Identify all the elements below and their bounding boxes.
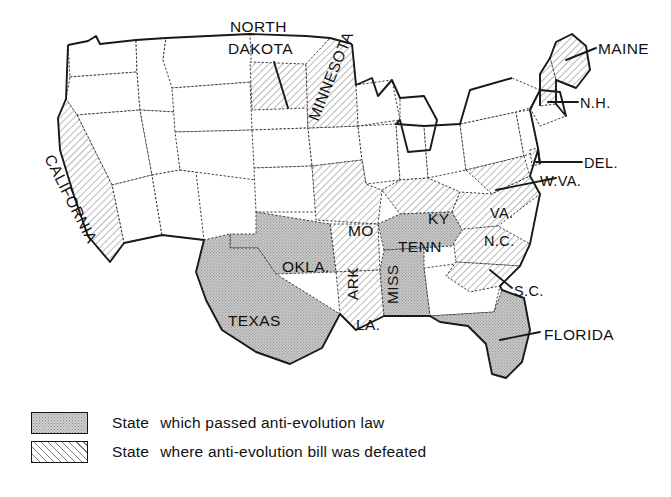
label-nh: N.H. (580, 95, 611, 111)
map-legend: Statewhich passed anti-evolution law Sta… (0, 408, 671, 497)
state-WY (172, 82, 254, 132)
legend-lead-passed: State (112, 414, 149, 431)
label-mo: MO (348, 222, 374, 239)
state-KY-shape (382, 178, 460, 214)
legend-desc-passed: which passed anti-evolution law (160, 414, 384, 431)
label-north-dakota-line1: NORTH (230, 18, 287, 35)
state-OH (424, 124, 466, 178)
legend-label-passed: Statewhich passed anti-evolution law (112, 414, 384, 432)
label-sc: S.C. (514, 283, 544, 299)
label-del: DEL. (584, 155, 618, 171)
label-maine: MAINE (598, 40, 649, 57)
state-OR (66, 72, 140, 115)
map-svg: NORTH DAKOTA MINNESOTA CALIFORNIA MAINE … (0, 0, 671, 408)
legend-label-defeated: Statewhere anti-evolution bill was defea… (112, 443, 426, 461)
label-ky: KY (428, 210, 449, 227)
label-miss: MISS (384, 265, 401, 305)
label-ark: ARK (344, 267, 361, 300)
state-IA (308, 126, 362, 166)
label-okla: OKLA. (282, 258, 330, 275)
label-va: VA. (490, 205, 514, 221)
state-WI (355, 80, 400, 126)
legend-desc-defeated: where anti-evolution bill was defeated (160, 443, 426, 460)
state-ND-shape (250, 62, 308, 110)
label-tenn: TENN (398, 238, 442, 255)
legend-item-passed: Statewhich passed anti-evolution law (31, 408, 671, 437)
label-north-dakota-line2: DAKOTA (228, 40, 293, 57)
label-texas: TEXAS (228, 312, 281, 329)
legend-item-defeated: Statewhere anti-evolution bill was defea… (31, 437, 671, 466)
label-la: LA. (356, 316, 380, 333)
label-nc: N.C. (484, 233, 515, 249)
legend-swatch-passed (31, 412, 88, 434)
label-florida: FLORIDA (544, 326, 614, 343)
label-wva: W.VA. (540, 173, 581, 189)
legend-swatch-defeated (31, 441, 88, 463)
state-KS (254, 166, 316, 212)
state-NE (252, 128, 312, 168)
legend-lead-defeated: State (112, 443, 149, 460)
